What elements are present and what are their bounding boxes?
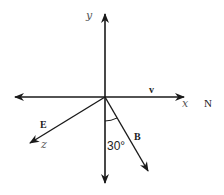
x-axis-label: x — [182, 98, 188, 109]
z-axis-label: z — [41, 139, 47, 150]
e-vector-label: E — [40, 120, 47, 130]
v-vector-label: v — [149, 85, 154, 95]
north-label: N — [204, 98, 212, 109]
axes-svg — [0, 0, 224, 195]
y-axis-label: y — [86, 10, 92, 21]
b-vector — [105, 97, 148, 171]
angle-label: 30° — [107, 140, 125, 152]
vector-diagram: y v x N E z 30° B — [0, 0, 224, 195]
b-vector-label: B — [134, 132, 141, 142]
angle-arc — [105, 118, 117, 121]
